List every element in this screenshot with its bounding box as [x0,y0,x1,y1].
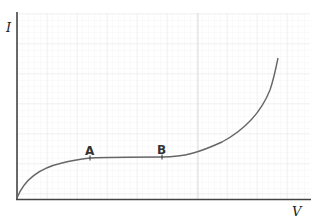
x-axis-label: V [292,204,303,219]
grid [17,13,310,199]
point-a-label: A [85,144,95,158]
point-b-label: B [157,143,166,157]
y-axis-label: I [5,20,12,35]
iv-characteristic-graph: I V A B [0,0,317,221]
